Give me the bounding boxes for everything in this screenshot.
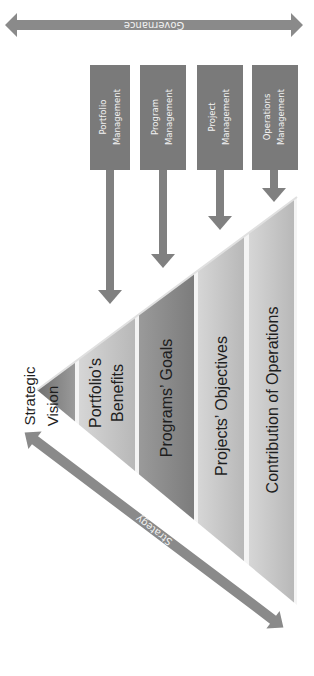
operations-management-line2: Management [276,88,286,145]
portfolio-management-line1: Portfolio [98,100,108,135]
portfolio-benefits-line1: Portfolio’s [87,358,104,428]
portfolio-down-arrow [98,170,122,304]
governance-arrow: Governance [5,13,303,37]
projects-objectives-label: Projects’ Objectives [213,336,230,476]
portfolio-benefits-line2: Benefits [109,364,126,422]
strategy-label: Strategy [133,513,174,548]
management-box-program: Program Management [140,65,186,170]
portfolio-management-line2: Management [112,88,122,145]
operations-down-arrow [262,170,286,202]
programs-goals-label: Programs’ Goals [158,339,175,458]
management-box-portfolio: Portfolio Management [90,65,130,170]
project-management-line1: Project [207,102,217,132]
governance-label: Governance [124,20,184,31]
management-box-operations: Operations Management [252,65,298,170]
strategic-vision-line1: Strategic [21,366,38,426]
strategic-vision-line2: Vision [44,386,61,427]
management-box-project: Project Management [197,65,243,170]
operations-management-line1: Operations [262,93,272,140]
project-management-line2: Management [221,88,231,145]
project-down-arrow [208,170,232,230]
program-down-arrow [151,170,175,268]
program-management-line2: Management [164,88,174,145]
contribution-of-operations-label: Contribution of Operations [264,307,281,494]
program-management-line1: Program [150,99,160,135]
strategy-governance-diagram: Governance Portfolio Management Program … [0,0,314,676]
